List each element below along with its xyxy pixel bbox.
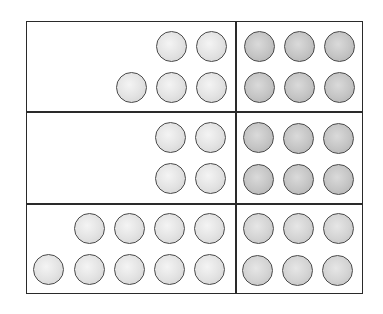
counter (324, 31, 355, 62)
counter (156, 31, 187, 62)
counter (194, 254, 225, 285)
counter (195, 122, 226, 153)
row-divider-1 (26, 111, 363, 113)
counter (243, 164, 274, 195)
counter (323, 213, 354, 244)
counter (114, 213, 145, 244)
counter (196, 31, 227, 62)
counter (284, 72, 315, 103)
counter (33, 254, 64, 285)
counter (283, 123, 314, 154)
counter (244, 31, 275, 62)
counter (74, 254, 105, 285)
counter (323, 123, 354, 154)
counter (284, 31, 315, 62)
counter (154, 213, 185, 244)
counter (242, 255, 273, 286)
counter (74, 213, 105, 244)
counter (156, 72, 187, 103)
counter (283, 164, 314, 195)
counter (243, 122, 274, 153)
counter (196, 72, 227, 103)
column-divider (235, 21, 237, 294)
counter-grid-frame (26, 21, 363, 294)
counter (155, 163, 186, 194)
counter (116, 72, 147, 103)
counter (243, 213, 274, 244)
counter (244, 72, 275, 103)
counter (322, 255, 353, 286)
counter (154, 254, 185, 285)
counter (282, 255, 313, 286)
counter (114, 254, 145, 285)
counter (155, 122, 186, 153)
counter (324, 72, 355, 103)
counter (194, 213, 225, 244)
counter (323, 164, 354, 195)
row-divider-2 (26, 203, 363, 205)
counter (283, 213, 314, 244)
counter (195, 163, 226, 194)
